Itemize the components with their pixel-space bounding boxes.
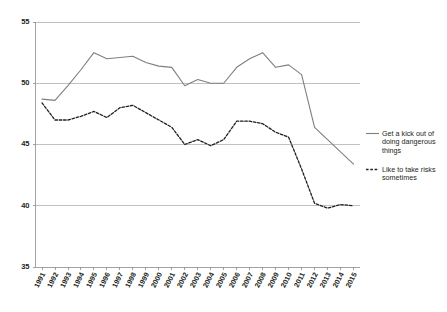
y-tick-label: 40 <box>21 201 29 210</box>
x-tick-label: 2009 <box>266 271 281 289</box>
x-tick-label: 2014 <box>330 271 345 289</box>
y-tick-label: 45 <box>21 139 29 148</box>
x-tick-label: 2015 <box>343 271 358 289</box>
x-tick-label: 2013 <box>318 271 333 289</box>
legend-label-2: sometimes <box>382 173 417 182</box>
x-tick-label: 2005 <box>214 271 229 289</box>
line-chart-container: 3540455055 19911992199319941995199619971… <box>0 0 447 312</box>
x-tick-label: 1995 <box>84 271 99 289</box>
x-tick-label: 2008 <box>253 271 268 289</box>
x-tick-label: 2002 <box>175 271 190 289</box>
x-tick-label: 2012 <box>305 271 320 289</box>
x-tick-label: 1998 <box>123 271 138 289</box>
chart-canvas: 3540455055 19911992199319941995199619971… <box>0 0 447 312</box>
x-tick-label: 1999 <box>136 271 151 289</box>
legend-group: Get a kick out ofdoing dangerousthingsLi… <box>366 129 436 182</box>
x-tick-label: 2000 <box>149 271 164 289</box>
series-line-2 <box>42 103 354 208</box>
y-tick-label: 35 <box>21 262 29 271</box>
x-tick-label: 1997 <box>110 271 125 289</box>
y-axis-group: 3540455055 <box>21 17 35 271</box>
series-line-1 <box>42 53 354 164</box>
series-group <box>42 53 354 209</box>
x-tick-label: 1991 <box>32 271 47 289</box>
x-tick-label: 2007 <box>240 271 255 289</box>
x-tick-label: 1992 <box>45 271 60 289</box>
x-tick-label: 1993 <box>58 271 73 289</box>
y-tick-label: 50 <box>21 78 29 87</box>
x-tick-label: 2006 <box>227 271 242 289</box>
x-tick-label: 1996 <box>97 271 112 289</box>
x-tick-label: 2010 <box>279 271 294 289</box>
x-tick-label: 1994 <box>71 271 86 289</box>
x-tick-label: 2004 <box>201 271 216 289</box>
x-tick-label: 2001 <box>162 271 177 289</box>
legend-label-1: things <box>382 146 402 155</box>
y-tick-label: 55 <box>21 17 29 26</box>
x-tick-label: 2003 <box>188 271 203 289</box>
x-axis-group: 1991199219931994199519961997199819992000… <box>32 267 360 289</box>
